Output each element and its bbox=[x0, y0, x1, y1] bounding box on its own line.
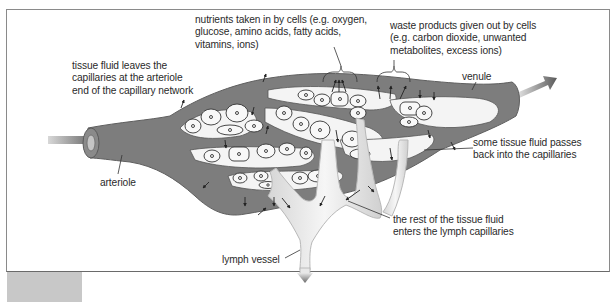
label-arteriole: arteriole bbox=[100, 177, 136, 189]
label-lymph-vessel: lymph vessel bbox=[222, 254, 280, 266]
label-nutrients: nutrients taken in by cells (e.g. oxygen… bbox=[195, 14, 367, 51]
label-rest-enters-lymph: the rest of the tissue fluid enters the … bbox=[393, 214, 514, 239]
label-tissue-fluid-leaves: tissue fluid leaves the capillaries at t… bbox=[72, 60, 193, 97]
lymph-out-arrow bbox=[297, 273, 313, 283]
label-venule: venule bbox=[462, 71, 491, 83]
blood-out-arrow bbox=[514, 76, 557, 99]
label-some-tissue-fluid-returns: some tissue fluid passes back into the c… bbox=[473, 137, 582, 162]
label-waste-products: waste products given out by cells (e.g. … bbox=[390, 20, 536, 57]
